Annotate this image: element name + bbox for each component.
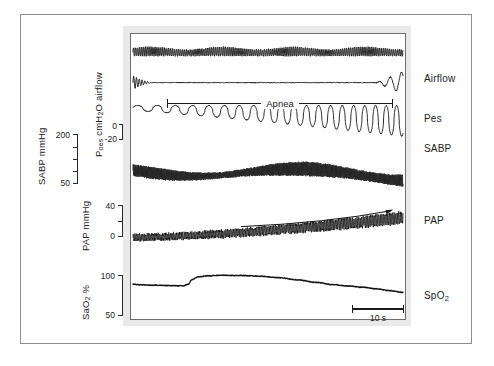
axis-tick-poes-max: 0 xyxy=(95,121,117,131)
axis-label-poes: Poes cmH2O airflow xyxy=(93,72,104,157)
time-scale-right-cap xyxy=(403,305,404,313)
axis-label-sao2-text: SaO2 % xyxy=(80,285,91,320)
axis-subtick-sabp-3 xyxy=(73,171,77,172)
axis-label-sao2-subscript: 2 xyxy=(84,296,91,300)
channel-label-pes: Pes xyxy=(424,113,442,124)
axis-tick-sabp-min: 50 xyxy=(48,178,70,188)
axis-label-sao2: SaO2 % xyxy=(80,285,91,320)
trace-airflow xyxy=(133,72,403,91)
apnea-label: Apnea xyxy=(261,98,298,109)
channel-label-spo2: SpO2 xyxy=(424,290,449,303)
axis-tick-sabp-max: 200 xyxy=(48,130,70,140)
time-scale-bar: 10 s xyxy=(352,305,404,323)
trace-spo2 xyxy=(133,275,403,293)
axis-subtick-pap-1 xyxy=(118,221,122,222)
channel-label-airflow: Airflow xyxy=(424,73,455,84)
channel-label-spo2-subscript: 2 xyxy=(445,294,449,303)
channel-label-pap: PAP xyxy=(424,215,444,226)
axis-tick-pap-min: 0 xyxy=(93,231,115,241)
axis-tick-sao2-min: 50 xyxy=(91,310,115,320)
apnea-bracket: Apnea xyxy=(167,98,393,109)
apnea-bracket-line-left xyxy=(168,103,261,104)
trace-respiratory-movement xyxy=(133,47,403,57)
trace-pes xyxy=(133,105,403,136)
axis-label-poes-h2o-subscript: 2 xyxy=(97,112,104,116)
axis-label-pap: PAP mmHg xyxy=(80,201,91,251)
apnea-bracket-right-cap xyxy=(392,99,393,108)
axis-tick-pap-max: 40 xyxy=(93,201,115,211)
physiological-traces-svg xyxy=(131,34,405,319)
axis-subtick-sabp-1 xyxy=(73,147,77,148)
axis-label-sabp: SABP mmHg xyxy=(36,127,47,185)
figure-root: SABP mmHg 200 50 Poes cmH2O airflow 0 -2… xyxy=(0,0,494,366)
trace-sabp xyxy=(133,162,403,187)
axis-tick-poes-min: -20 xyxy=(92,134,117,144)
trace-panel xyxy=(123,26,411,326)
trace-panel-inner xyxy=(130,33,406,320)
axis-subtick-sabp-2 xyxy=(73,159,77,160)
axis-label-poes-text: Poes cmH2O airflow xyxy=(93,72,104,157)
apnea-bracket-line-right xyxy=(299,103,392,104)
time-scale-label: 10 s xyxy=(370,313,386,323)
channel-label-spo2-text: SpO xyxy=(424,290,445,301)
axis-tick-sao2-max: 100 xyxy=(91,271,115,281)
time-scale-line xyxy=(353,308,402,309)
channel-label-sabp: SABP xyxy=(424,143,451,154)
time-scale-line-group xyxy=(352,305,404,313)
